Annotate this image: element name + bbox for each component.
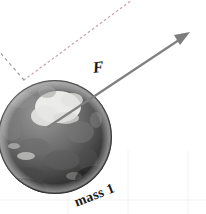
arrowhead	[174, 32, 190, 45]
diagram-canvas: F mass 1	[0, 0, 206, 214]
dashed-guide-line	[0, 49, 24, 80]
force-label: F	[92, 59, 105, 76]
force-diagram	[0, 0, 206, 214]
dotted-guide-line	[24, 0, 132, 80]
earth-sphere	[0, 68, 115, 202]
